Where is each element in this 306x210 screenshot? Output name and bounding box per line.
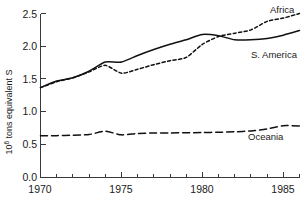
x-tick-group [41, 172, 300, 178]
series-label-s-america: S. America [251, 49, 298, 60]
x-tick-labels: 1970 1975 1980 1985 [28, 183, 295, 195]
y-tick-label-0-0: 0.0 [22, 171, 37, 183]
x-tick-label-1970: 1970 [28, 183, 52, 195]
y-tick-label-1-0: 1.0 [22, 105, 37, 117]
series-label-oceania: Oceania [248, 131, 284, 142]
y-axis-title: 106 tons equivalent S [3, 69, 14, 154]
axes-group [41, 14, 300, 178]
y-tick-group [41, 14, 46, 178]
y-tick-label-2-5: 2.5 [22, 8, 37, 20]
x-tick-label-1980: 1980 [190, 183, 214, 195]
series-group [41, 14, 300, 136]
series-annotations: Africa S. America Oceania [248, 4, 298, 142]
chart-container: 2.5 2.0 1.5 1.0 0.5 0.0 1970 1975 1980 1… [0, 0, 306, 210]
y-tick-label-2-0: 2.0 [22, 40, 37, 52]
line-chart-svg: 2.5 2.0 1.5 1.0 0.5 0.0 1970 1975 1980 1… [0, 0, 306, 210]
x-tick-label-1975: 1975 [109, 183, 133, 195]
series-label-africa: Africa [270, 4, 295, 15]
y-tick-label-1-5: 1.5 [22, 73, 37, 85]
x-tick-label-1985: 1985 [271, 183, 295, 195]
svg-text:106 tons equivalent S: 106 tons equivalent S [3, 69, 14, 154]
y-axis-title-rest: tons equivalent S [4, 69, 14, 141]
y-tick-label-0-5: 0.5 [22, 138, 37, 150]
y-tick-labels: 2.5 2.0 1.5 1.0 0.5 0.0 [22, 8, 37, 184]
y-axis-title-base: 10 [4, 145, 14, 155]
